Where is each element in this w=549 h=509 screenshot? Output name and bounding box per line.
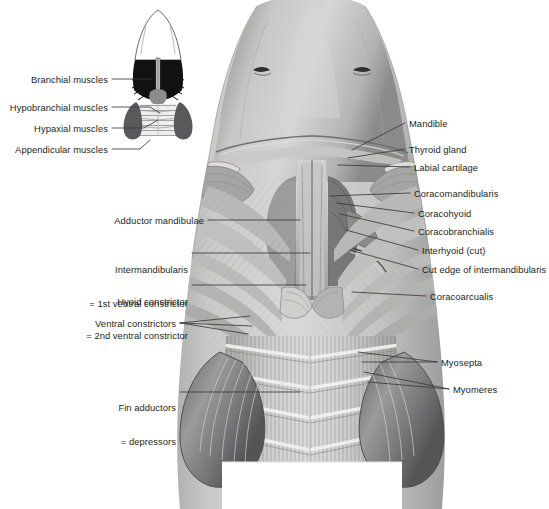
label-coracobranchialis: Coracobranchialis xyxy=(418,226,494,237)
inset-region-appendicular-left xyxy=(124,102,143,139)
label-myomeres: Myomeres xyxy=(453,384,497,395)
inset-label-appendicular: Appendicular muscles xyxy=(0,144,108,155)
inset-label-branchial: Branchial muscles xyxy=(0,74,108,85)
label-fin-adductors-line2: = depressors xyxy=(44,436,176,447)
label-cut-edge-intermandibularis: Cut edge of intermandibularis xyxy=(422,264,546,275)
inset-label-hypaxial: Hypaxial muscles xyxy=(0,123,108,134)
label-thyroid-gland: Thyroid gland xyxy=(409,144,467,155)
muscle-group-schematic-inset xyxy=(112,8,204,160)
label-fin-adductors-line1: Fin adductors xyxy=(44,402,176,413)
inset-region-hypobranchial xyxy=(149,89,166,106)
label-coracoarcualis: Coracoarcualis xyxy=(430,291,493,302)
label-interhyoid-cut: Interhyoid (cut) xyxy=(422,245,486,256)
label-myosepta: Myosepta xyxy=(441,357,482,368)
label-mandible: Mandible xyxy=(409,118,448,129)
label-fin-adductors: Fin adductors = depressors xyxy=(44,379,176,470)
inset-region-rostrum xyxy=(135,10,181,60)
label-coracomandibularis: Coracomandibularis xyxy=(414,188,498,199)
label-hyoid-constrictor-line2: = 2nd ventral constrictor xyxy=(44,330,188,341)
inset-label-hypobranchial: Hypobranchial muscles xyxy=(0,102,108,113)
figure-canvas: Branchial muscles Hypobranchial muscles … xyxy=(0,0,549,509)
label-ventral-constrictors: Ventral constrictors xyxy=(44,318,176,329)
label-adductor-mandibulae: Adductor mandibulae xyxy=(64,215,204,226)
label-hyoid-constrictor-line1: Hyoid constrictor xyxy=(44,296,188,307)
inset-region-appendicular-right xyxy=(174,102,193,139)
label-coracohyoid: Coracohyoid xyxy=(418,208,471,219)
label-labial-cartilage: Labial cartilage xyxy=(414,162,478,173)
